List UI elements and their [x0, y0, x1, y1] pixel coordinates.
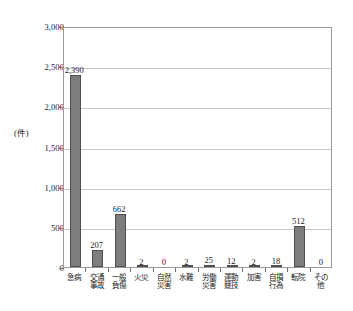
- bar-value-label: 2,390: [65, 65, 84, 75]
- x-category-label: 自損行為: [268, 274, 284, 290]
- x-tick-mark: [85, 268, 86, 272]
- plot-area: [63, 27, 332, 268]
- gridline: [64, 108, 331, 109]
- bar: [92, 250, 103, 267]
- x-category-label: 自然災害: [156, 274, 172, 290]
- x-category-label: 労働災害: [201, 274, 217, 290]
- y-tick-mark: [59, 268, 63, 269]
- bar-chart-figure: (件) 05001,0001,5002,0002,5003,000 2,390急…: [0, 0, 353, 311]
- bar-value-label: 2: [251, 257, 255, 267]
- y-tick-label: 2,500: [44, 62, 64, 72]
- x-category-label: 交通事故: [89, 274, 105, 290]
- gridline: [64, 229, 331, 230]
- bar: [115, 214, 126, 267]
- x-category-label: 加害: [246, 274, 262, 282]
- bar: [70, 75, 81, 267]
- bar-value-label: 2: [184, 257, 188, 267]
- x-tick-mark: [175, 268, 176, 272]
- x-category-label: その他: [313, 274, 329, 290]
- x-tick-mark: [108, 268, 109, 272]
- x-tick-mark: [265, 268, 266, 272]
- bar-value-label: 2: [139, 257, 143, 267]
- bar-value-label: 12: [227, 256, 236, 266]
- gridline: [64, 149, 331, 150]
- gridline: [64, 189, 331, 190]
- gridline: [64, 68, 331, 69]
- x-tick-mark: [310, 268, 311, 272]
- x-tick-mark: [287, 268, 288, 272]
- x-tick-mark: [198, 268, 199, 272]
- bar-value-label: 0: [319, 257, 323, 267]
- y-tick-label: 1,000: [44, 183, 64, 193]
- x-category-label: 急病: [66, 274, 82, 282]
- x-tick-mark: [130, 268, 131, 272]
- bar: [294, 226, 305, 267]
- x-category-label: 一般負傷: [111, 274, 127, 290]
- x-tick-mark: [153, 268, 154, 272]
- x-category-label: 火災: [133, 274, 149, 282]
- x-tick-mark: [242, 268, 243, 272]
- bar-value-label: 207: [90, 240, 103, 250]
- y-axis-unit-label: (件): [14, 126, 29, 138]
- bar-value-label: 18: [272, 256, 281, 266]
- bar-value-label: 25: [204, 255, 213, 265]
- bar-value-label: 0: [162, 257, 166, 267]
- y-tick-label: 2,000: [44, 102, 64, 112]
- x-tick-mark: [220, 268, 221, 272]
- x-category-label: 転院: [290, 274, 306, 282]
- bar-value-label: 512: [292, 216, 305, 226]
- bar-value-label: 662: [113, 204, 126, 214]
- x-category-label: 運動競技: [223, 274, 239, 290]
- bar: [204, 265, 215, 267]
- y-tick-label: 3,000: [44, 22, 64, 32]
- y-tick-label: 1,500: [44, 143, 64, 153]
- x-category-label: 水難: [178, 274, 194, 282]
